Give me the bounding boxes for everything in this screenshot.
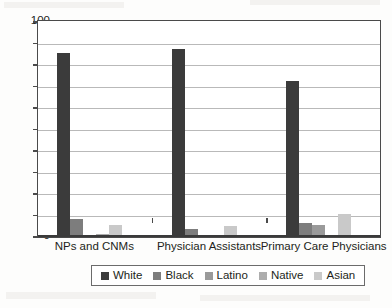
legend-item-black[interactable]: Black xyxy=(153,270,193,282)
legend-swatch-icon xyxy=(205,272,213,280)
legend-swatch-icon xyxy=(153,272,161,280)
legend-swatch-icon xyxy=(314,272,322,280)
legend-item-native[interactable]: Native xyxy=(259,270,304,282)
legend-item-latino[interactable]: Latino xyxy=(205,270,248,282)
legend-swatch-icon xyxy=(101,272,109,280)
chart-legend: WhiteBlackLatinoNativeAsian xyxy=(91,265,365,286)
bar-black-1 xyxy=(70,219,83,235)
scan-artifact xyxy=(200,295,370,301)
bar-white-3 xyxy=(286,81,299,236)
legend-label: White xyxy=(113,270,142,282)
legend-swatch-icon xyxy=(259,272,267,280)
bar-white-1 xyxy=(57,53,70,236)
gridline xyxy=(38,151,380,152)
x-axis-tick-mark xyxy=(380,218,381,223)
bar-white-2 xyxy=(172,49,185,235)
gridline xyxy=(38,194,380,195)
x-axis-tick-mark xyxy=(152,218,153,223)
gridline xyxy=(38,173,380,174)
plot-area xyxy=(37,20,381,238)
gridline xyxy=(38,216,380,217)
legend-label: Black xyxy=(165,270,193,282)
x-axis-category-label: Primary Care Physicians xyxy=(261,240,387,253)
legend-label: Native xyxy=(271,270,304,282)
bar-asian-3 xyxy=(338,214,351,236)
bar-chart: 0102030405060708090100 NPs and CNMsPhysi… xyxy=(0,0,392,308)
legend-label: Latino xyxy=(217,270,248,282)
gridline xyxy=(38,130,380,131)
legend-item-white[interactable]: White xyxy=(101,270,142,282)
gridline xyxy=(38,65,380,66)
gridline xyxy=(38,44,380,45)
gridline xyxy=(38,87,380,88)
legend-item-asian[interactable]: Asian xyxy=(314,270,355,282)
bar-latino-3 xyxy=(312,225,325,236)
bar-black-3 xyxy=(299,223,312,236)
x-axis-category-label: Physician Assistants xyxy=(157,240,261,253)
gridline xyxy=(38,108,380,109)
scan-artifact xyxy=(250,0,380,5)
bar-asian-1 xyxy=(109,225,122,236)
plot-area-wrapper xyxy=(37,20,381,238)
x-axis-tick-mark xyxy=(266,218,267,223)
legend-label: Asian xyxy=(326,270,355,282)
x-axis-category-label: NPs and CNMs xyxy=(55,240,134,253)
bar-asian-2 xyxy=(224,226,237,236)
scan-artifact xyxy=(6,292,156,299)
scan-artifact xyxy=(4,2,124,8)
x-axis-line xyxy=(38,235,380,237)
